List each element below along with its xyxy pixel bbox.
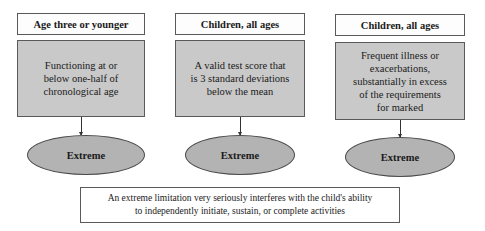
column-3-arrow	[400, 120, 401, 137]
criterion-line: below one-half of	[44, 72, 119, 85]
column-3-criterion-box: Frequent illness or exacerbations, subst…	[335, 42, 465, 120]
definition-box: An extreme limitation very seriously int…	[80, 187, 400, 223]
criterion-line: Frequent illness or	[353, 49, 447, 62]
column-1-arrow	[81, 117, 82, 135]
criterion-line: A valid test score that	[191, 59, 290, 72]
criterion-line: for marked	[353, 101, 447, 114]
definition-line: to independently initiate, sustain, or c…	[81, 205, 399, 218]
column-3-header: Children, all ages	[335, 14, 465, 36]
criterion-line: is 3 standard deviations	[191, 72, 290, 85]
criterion-line: exacerbations,	[353, 62, 447, 75]
definition-line: An extreme limitation very seriously int…	[81, 192, 399, 205]
criterion-line: substantially in excess	[353, 75, 447, 88]
column-2-arrow	[240, 117, 241, 135]
column-2-header: Children, all ages	[175, 13, 305, 35]
criterion-line: chronological age	[44, 85, 119, 98]
column-2-result-ellipse: Extreme	[185, 135, 295, 175]
column-1-criterion-box: Functioning at or below one-half of chro…	[17, 40, 145, 117]
criterion-line: below the mean	[191, 85, 290, 98]
criterion-line: of the requirements	[353, 88, 447, 101]
column-1-result-ellipse: Extreme	[27, 135, 145, 175]
column-3-result-ellipse: Extreme	[345, 137, 455, 177]
column-1-header: Age three or younger	[17, 13, 145, 35]
column-2-criterion-box: A valid test score that is 3 standard de…	[175, 40, 305, 117]
criterion-line: Functioning at or	[44, 59, 119, 72]
